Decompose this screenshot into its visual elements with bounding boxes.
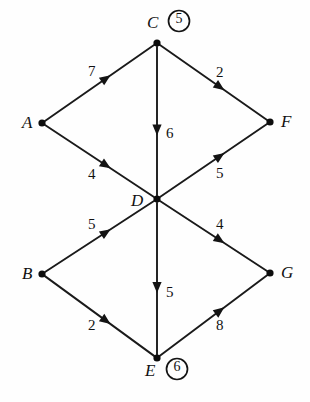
arrowhead-B-E — [99, 314, 111, 324]
node-annotation-value-C: 5 — [169, 12, 189, 26]
arrowhead-B-D — [99, 229, 111, 239]
node-dot-C[interactable] — [153, 39, 160, 46]
node-label-B: B — [22, 265, 32, 282]
node-label-E: E — [145, 362, 155, 379]
edge-B-E — [45, 276, 154, 356]
node-label-C: C — [147, 14, 158, 31]
edge-weight-A-D: 4 — [88, 167, 96, 182]
node-label-D: D — [131, 192, 143, 209]
arrowhead-D-E — [152, 282, 161, 293]
edge-weight-C-D: 6 — [166, 126, 174, 141]
node-label-F: F — [281, 113, 291, 130]
edge-D-F — [160, 124, 267, 197]
edge-weight-B-D: 5 — [88, 217, 96, 232]
arrowhead-A-C — [99, 75, 111, 85]
node-annotation-value-E: 6 — [167, 360, 187, 374]
node-dot-F[interactable] — [266, 118, 273, 125]
edge-weight-C-F: 2 — [216, 65, 224, 80]
nodes-layer — [38, 11, 273, 380]
edge-A-D — [45, 125, 154, 197]
edge-C-F — [160, 45, 267, 120]
node-label-A: A — [22, 114, 32, 131]
arrowhead-D-F — [213, 153, 225, 163]
edge-weight-E-G: 8 — [216, 318, 224, 333]
node-dot-A[interactable] — [38, 119, 45, 126]
arrowhead-D-G — [213, 233, 225, 243]
node-dot-D[interactable] — [153, 195, 160, 202]
edge-weight-D-E: 5 — [166, 285, 174, 300]
edge-A-C — [45, 45, 154, 121]
arrowhead-C-F — [213, 80, 225, 90]
edge-weight-D-F: 5 — [216, 166, 224, 181]
graph-canvas — [0, 0, 310, 402]
edge-weight-D-G: 4 — [216, 217, 224, 232]
arrowhead-C-D — [152, 124, 161, 135]
edge-weight-B-E: 2 — [88, 318, 96, 333]
node-dot-G[interactable] — [266, 269, 273, 276]
node-label-G: G — [281, 264, 293, 281]
edge-B-D — [45, 201, 154, 272]
graph-figure: ABC5DE6FG7264554258 — [0, 0, 310, 402]
arrowhead-A-D — [99, 158, 111, 168]
arrowheads-layer — [99, 75, 225, 324]
edge-E-G — [160, 275, 267, 356]
node-dot-B[interactable] — [38, 270, 45, 277]
edge-D-G — [160, 201, 267, 271]
edge-weight-A-C: 7 — [88, 64, 96, 79]
